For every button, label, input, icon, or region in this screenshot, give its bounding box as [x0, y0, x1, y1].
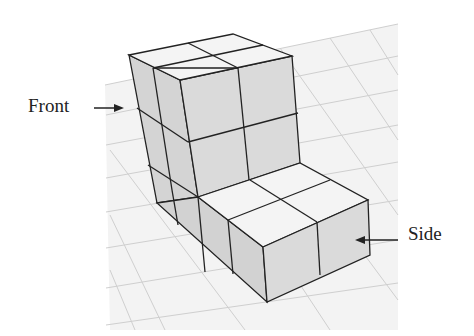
- side-label: Side: [408, 223, 442, 245]
- cube-structure-figure: Front Side: [0, 0, 474, 336]
- front-label: Front: [28, 95, 69, 117]
- cube-diagram: [0, 0, 474, 336]
